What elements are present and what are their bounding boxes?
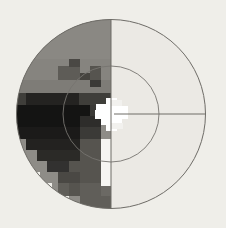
inferior-meridian-white-strip — [101, 139, 111, 186]
visual-field-plot-container — [0, 0, 226, 228]
visual-field-grayscale-chart — [0, 0, 226, 228]
